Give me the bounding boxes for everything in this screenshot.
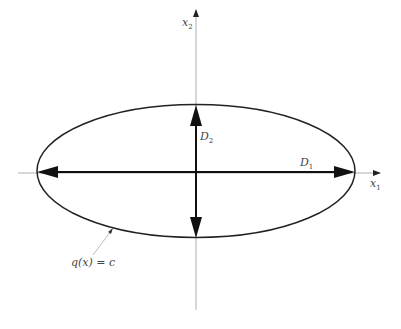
curve-pointer xyxy=(93,228,113,255)
ellipse-diagram: x2 x1 D2 D1 q(x) = c xyxy=(0,0,401,329)
x1-axis-label: x1 xyxy=(370,177,381,192)
d2-label: D2 xyxy=(199,130,213,145)
curve-label: q(x) = c xyxy=(71,256,115,269)
x2-axis-label: x2 xyxy=(182,16,193,31)
d1-label: D1 xyxy=(299,156,313,171)
